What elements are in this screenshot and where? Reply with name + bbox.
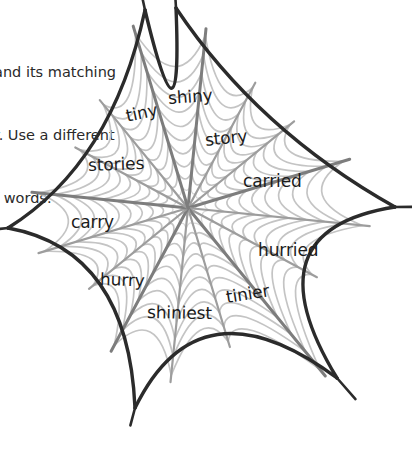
spider-web-diagram — [0, 0, 412, 450]
web-word-shiniest: shiniest — [147, 302, 212, 323]
web-word-carry: carry — [71, 212, 114, 232]
web-word-hurried: hurried — [258, 240, 319, 260]
web-spokes — [32, 26, 370, 382]
web-word-carried: carried — [243, 171, 302, 191]
web-word-story: story — [204, 125, 248, 149]
web-word-stories: stories — [88, 153, 145, 175]
web-word-shiny: shiny — [167, 85, 213, 108]
web-anchor-guy-lines — [0, 0, 412, 425]
web-word-hurry: hurry — [100, 269, 145, 291]
worksheet-page: and its matching r. Use a different f wo… — [0, 0, 412, 450]
